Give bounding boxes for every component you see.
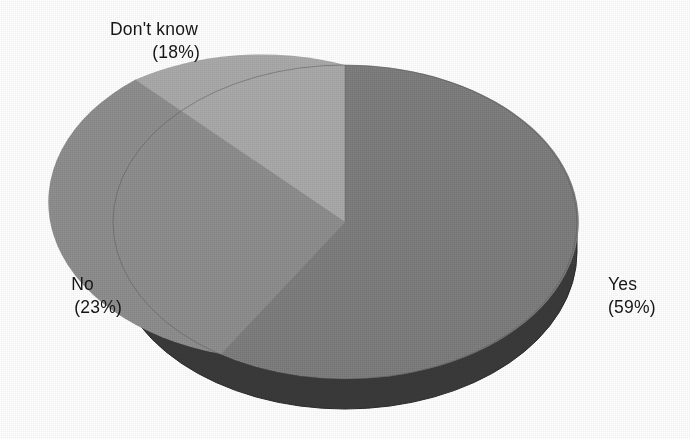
pie-chart-graphic	[0, 0, 690, 439]
pie-label-dont-know-percent: (18%)	[0, 41, 202, 64]
pie-label-no-name: No	[0, 273, 122, 296]
pie-label-no: No (23%)	[0, 273, 122, 319]
pie-label-no-percent: (23%)	[0, 296, 122, 319]
pie-label-yes: Yes (59%)	[608, 273, 656, 319]
pie-label-yes-percent: (59%)	[608, 296, 656, 319]
pie-label-yes-name: Yes	[608, 273, 656, 296]
pie-label-dont-know-name: Don't know	[0, 18, 202, 41]
pie-label-dont-know: Don't know (18%)	[0, 18, 202, 64]
pie-chart: Don't know (18%) No (23%) Yes (59%)	[0, 0, 690, 439]
